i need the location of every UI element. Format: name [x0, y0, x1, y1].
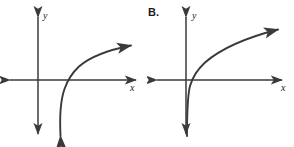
- y-axis-label-b: y: [192, 11, 196, 21]
- graph-panel-a: y x: [0, 0, 147, 147]
- graph-panel-b: B. y x: [147, 0, 294, 147]
- log-curve-a: [60, 46, 131, 137]
- log-curve-b: [187, 30, 278, 137]
- figure-container: y x B. y x: [0, 0, 294, 147]
- x-axis-label-b: x: [281, 83, 285, 93]
- coordinate-plane-b: [147, 0, 294, 147]
- y-axis-label-a: y: [43, 11, 47, 21]
- coordinate-plane-a: [0, 0, 147, 147]
- x-axis-label-a: x: [130, 83, 134, 93]
